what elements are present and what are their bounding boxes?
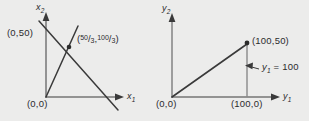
primal-x-axis-label: x1 [127,92,136,103]
primal-y-intercept-label: (0,50) [7,28,33,38]
primal-constraint-line-through-origin [46,26,78,97]
dual-y-axis-label-subscript: 2 [167,8,171,15]
intersection-first-fraction: 50/3 [80,34,94,44]
primal-y-axis-label: x2 [36,3,45,14]
primal-intersection-point-marker [67,45,72,50]
primal-diagram-panel: x2 x1 (0,50) (0,0) (50/3,100/3) [0,0,155,121]
dual-corner-point-label: (100,50) [252,36,289,46]
dual-origin-label: (0,0) [156,99,177,109]
dual-diagram-panel: y2 y1 (100,50) (0,0) (100,0) y1 = 100 [155,0,309,121]
dual-constraint-annotation-label: y1 = 100 [262,62,299,74]
figure-root: x2 x1 (0,50) (0,0) (50/3,100/3) [0,0,309,121]
primal-intersection-coordinate-label: (50/3,100/3) [77,34,119,44]
dual-y-axis-label: y2 [162,4,171,15]
intersection-paren-close: ) [115,34,118,44]
dual-x-axis-arrowhead [271,94,280,101]
primal-origin-label: (0,0) [27,99,48,109]
dual-x-axis-label-subscript: 1 [288,96,292,103]
intersection-second-fraction: 100/3 [97,34,115,44]
dual-ray-from-origin [172,44,247,97]
dual-annotation-arrowhead [245,63,253,70]
dual-x-point-label: (100,0) [231,99,263,109]
dual-corner-point-marker [245,41,250,46]
dual-x-axis-label: y1 [283,92,292,103]
primal-x-axis-arrowhead [115,94,124,101]
primal-y-axis-label-subscript: 2 [41,7,45,14]
dual-constraint-equation: = 100 [271,61,299,72]
primal-x-axis-label-subscript: 1 [132,96,136,103]
